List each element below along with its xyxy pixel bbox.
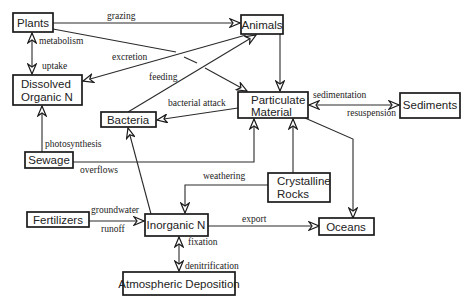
arrow-weathering (185, 185, 268, 213)
edge-label-weathering: weathering (203, 171, 245, 181)
nitrogen-cycle-diagram: grazing metabolism uptake excretion feed… (0, 0, 468, 303)
edge-label-fixation: fixation (188, 237, 218, 247)
edge-label-uptake: uptake (42, 61, 67, 71)
node-label: Dissolved (21, 78, 71, 90)
edge-label-metabolism: metabolism (39, 36, 84, 46)
node-oceans: Oceans (319, 218, 374, 235)
node-label: Bacteria (107, 114, 150, 126)
edge-particulate-material-to-oceans (305, 118, 353, 218)
edge-label-sedimentation: sedimentation (313, 90, 367, 100)
arrow-bacterial-attack (157, 108, 238, 120)
edge-particulate-material-sediments: sedimentation resuspension (309, 90, 399, 118)
edge-label-runoff: runoff (101, 224, 125, 234)
edge-label-export: export (242, 214, 267, 224)
edge-sewage-to-dissolved-organic-n: photosynthesis (42, 106, 102, 152)
node-label: Crystalline (277, 175, 331, 187)
node-label: Sediments (403, 99, 458, 111)
node-sediments: Sediments (400, 93, 460, 118)
node-fertilizers: Fertilizers (27, 212, 89, 227)
edge-label-excretion: excretion (112, 52, 148, 62)
node-label: Material (251, 106, 292, 118)
edge-label-overflows: overflows (80, 165, 118, 175)
edge-inorganic-n-to-oceans: export (208, 214, 319, 226)
node-animals: Animals (241, 15, 283, 34)
edge-label-denitrification: denitrification (185, 261, 239, 271)
edge-plants-dissolved-organic-n: metabolism uptake (32, 33, 84, 74)
edge-label-feeding: feeding (149, 72, 178, 82)
arrow-inorganic-bacteria (128, 128, 151, 214)
edge-inorganic-n-to-bacteria (128, 128, 151, 214)
node-atmospheric-deposition: Atmospheric Deposition (118, 272, 239, 295)
node-label: Rocks (277, 188, 309, 200)
arrow-segment (205, 68, 247, 91)
node-label: Oceans (326, 221, 366, 233)
node-inorganic-n: Inorganic N (145, 214, 208, 236)
arrow-particulate-oceans (305, 118, 353, 218)
node-label: Plants (17, 17, 49, 29)
node-dissolved-organic-n: Dissolved Organic N (13, 75, 82, 105)
node-label: Animals (242, 19, 283, 31)
node-label: Atmospheric Deposition (118, 278, 239, 290)
node-plants: Plants (13, 13, 53, 32)
node-label: Fertilizers (33, 214, 83, 226)
node-label: Particulate (251, 94, 305, 106)
edge-label-groundwater: groundwater (91, 205, 140, 215)
edge-plants-to-animals: grazing (53, 11, 240, 23)
node-label: Inorganic N (147, 219, 206, 231)
node-particulate-material: Particulate Material (238, 92, 308, 118)
node-crystalline-rocks: Crystalline Rocks (268, 173, 331, 202)
node-label: Organic N (21, 91, 73, 103)
node-label: Sewage (28, 154, 70, 166)
node-bacteria: Bacteria (101, 112, 156, 127)
edge-crystalline-rocks-to-inorganic-n: weathering (185, 171, 268, 213)
edge-label-photosynthesis: photosynthesis (45, 139, 102, 149)
arrow-segment (184, 57, 197, 63)
node-sewage: Sewage (25, 152, 73, 168)
edge-label-grazing: grazing (107, 11, 136, 21)
edge-label-bacterial-attack: bacterial attack (168, 98, 226, 108)
edge-particulate-material-to-bacteria: bacterial attack (157, 98, 238, 120)
edge-fertilizers-to-inorganic-n: groundwater runoff (89, 205, 144, 234)
edge-inorganic-n-atmospheric-deposition: fixation denitrification (179, 237, 239, 271)
edge-label-resuspension: resuspension (347, 108, 396, 118)
